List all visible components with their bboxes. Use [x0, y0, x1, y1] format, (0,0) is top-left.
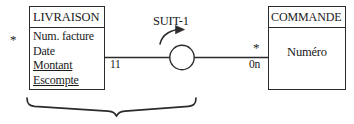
- attribute-numero: Numéro: [287, 45, 327, 60]
- relationship-circle: [170, 45, 194, 69]
- relationship-label: SUIT-1: [153, 14, 189, 29]
- entity-livraison-attributes: Num. facture Date Montant Escompte: [30, 28, 104, 89]
- entity-commande[interactable]: COMMANDE Numéro: [268, 6, 346, 90]
- bottom-brace: [27, 98, 196, 116]
- asterisk-marker-commande: *: [253, 41, 260, 54]
- attribute-date: Date: [33, 44, 104, 59]
- asterisk-marker-livraison: *: [10, 33, 17, 46]
- attribute-escompte: Escompte: [33, 73, 104, 88]
- entity-commande-attributes: Numéro: [269, 28, 345, 89]
- cardinality-right: 0n: [249, 58, 260, 70]
- attribute-num-facture: Num. facture: [33, 29, 104, 44]
- attribute-montant: Montant: [33, 58, 104, 73]
- entity-livraison-title: LIVRAISON: [30, 7, 104, 28]
- cardinality-left: 11: [110, 58, 121, 70]
- entity-commande-title: COMMANDE: [269, 7, 345, 28]
- entity-livraison[interactable]: LIVRAISON Num. facture Date Montant Esco…: [29, 6, 105, 90]
